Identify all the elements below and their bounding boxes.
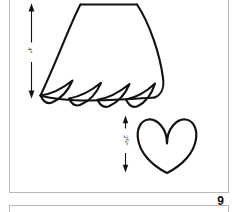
heart-height-dimension-label: 2¼″ — [122, 129, 129, 153]
page-number: 9 — [217, 194, 224, 208]
heart-dimension-unit: ″ — [122, 143, 130, 146]
main-figure-panel — [9, 0, 229, 193]
next-figure-panel — [9, 205, 229, 212]
skirt-height-dimension-label: 4″ — [26, 43, 33, 59]
pattern-page: 4″ 2¼″ 9 — [0, 0, 238, 212]
